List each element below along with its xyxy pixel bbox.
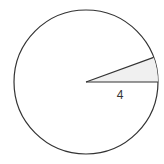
radius-label: 4 xyxy=(117,88,124,102)
circle-diagram: 4 xyxy=(0,0,164,164)
